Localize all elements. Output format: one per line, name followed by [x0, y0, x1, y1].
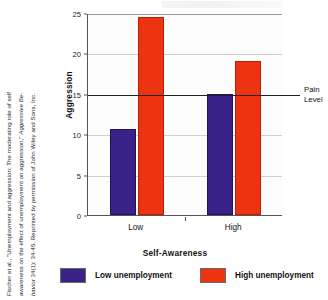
legend-swatch-icon: [200, 268, 226, 283]
pain-level-line: [88, 95, 283, 96]
y-axis-ticks: 0510152025: [68, 14, 84, 216]
gridline: [88, 14, 282, 15]
y-tick-label: 25: [73, 10, 81, 19]
citation-line-2-text: awareness on the effect of unemployment …: [17, 135, 24, 296]
y-tick-label: 0: [77, 212, 81, 221]
citation-line-3-journal: havior: [29, 279, 36, 296]
pain-level-leader-line: [282, 95, 300, 96]
legend-label: Low unemployment: [95, 271, 172, 280]
source-citation: Fischer et al., "Unemployment and aggres…: [0, 0, 52, 300]
x-axis-title: Self-Awareness: [68, 248, 282, 258]
plot-area: [87, 14, 282, 216]
bar-chart-figure: Aggression 0510152025 LowHigh Pain Level…: [52, 0, 328, 300]
bar-low-low[interactable]: [110, 129, 136, 215]
legend-swatch-icon: [60, 268, 86, 283]
chart-legend: Low unemploymentHigh unemployment: [52, 268, 328, 292]
citation-line-1: Fischer et al., "Unemployment and aggres…: [6, 92, 12, 296]
x-tick-label: High: [225, 223, 242, 232]
citation-line-3-text: 34(1): 34-45. Reprinted by permission of…: [29, 93, 36, 279]
citation-line-2-journal: Aggressive Be-: [17, 93, 24, 135]
legend-item-high[interactable]: High unemployment: [200, 268, 314, 283]
x-tick-label: Low: [128, 223, 143, 232]
scan-artifact: [162, 1, 282, 8]
plot-wrapper: 0510152025 LowHigh: [68, 14, 282, 226]
bar-high-high[interactable]: [235, 61, 261, 215]
pain-level-line-1: Pain: [304, 85, 323, 95]
gridline: [88, 54, 282, 55]
pain-level-annotation: Pain Level: [304, 85, 323, 104]
legend-label: High unemployment: [235, 271, 314, 280]
y-tick-label: 15: [73, 90, 81, 99]
x-tick-mark: [185, 217, 186, 221]
bar-high-low[interactable]: [207, 94, 233, 215]
legend-item-low[interactable]: Low unemployment: [60, 268, 172, 283]
pain-level-line-2: Level: [304, 95, 323, 105]
y-tick-label: 10: [73, 131, 81, 140]
citation-line-2: awareness on the effect of unemployment …: [18, 93, 24, 296]
bar-low-high[interactable]: [138, 17, 164, 215]
citation-line-3: havior 34(1): 34-45. Reprinted by permis…: [30, 93, 36, 296]
y-tick-label: 5: [77, 171, 81, 180]
y-tick-label: 20: [73, 50, 81, 59]
